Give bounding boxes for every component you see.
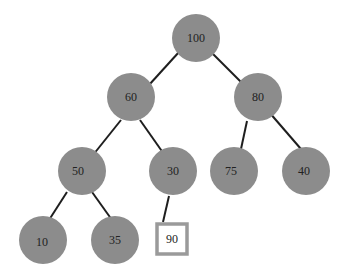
node-40: 40: [282, 147, 330, 195]
tree-diagram: 100 60 80 50 30 75 40 10: [0, 0, 348, 272]
node-label: 35: [109, 233, 121, 247]
edge-60-50: [93, 120, 121, 155]
node-label: 30: [167, 164, 179, 178]
node-10: 10: [19, 216, 67, 264]
node-label: 10: [36, 235, 48, 249]
edge-50-10: [49, 192, 67, 220]
node-75: 75: [210, 147, 258, 195]
node-label: 50: [72, 164, 84, 178]
node-label: 60: [125, 90, 137, 104]
node-50: 50: [58, 147, 106, 195]
node-label: 40: [298, 164, 310, 178]
node-80: 80: [234, 73, 282, 121]
node-100: 100: [172, 14, 220, 62]
node-90-inserted: 90: [157, 224, 187, 254]
nodes: 100 60 80 50 30 75 40 10: [19, 14, 330, 264]
node-60: 60: [107, 73, 155, 121]
node-label: 80: [252, 90, 264, 104]
node-label: 90: [166, 232, 178, 246]
node-label: 75: [225, 164, 237, 178]
node-label: 100: [187, 31, 205, 45]
edge-100-60: [149, 52, 179, 85]
edge-30-90: [163, 196, 169, 222]
edge-100-80: [211, 52, 241, 82]
node-35: 35: [91, 216, 139, 264]
edge-50-35: [92, 192, 112, 220]
node-30: 30: [149, 147, 197, 195]
edge-80-75: [241, 121, 247, 149]
